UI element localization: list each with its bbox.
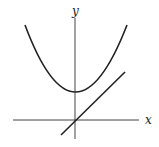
x-axis-label: x <box>145 113 152 127</box>
linear-function-line <box>61 72 125 135</box>
y-axis-label: y <box>71 4 79 18</box>
graph-canvas: y x <box>0 0 159 147</box>
parabola-curve <box>25 25 127 92</box>
